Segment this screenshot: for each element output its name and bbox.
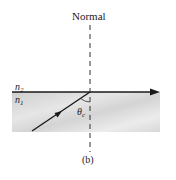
figure-caption: (b) bbox=[82, 155, 94, 165]
diagram-graphics bbox=[0, 0, 176, 180]
critical-angle-label: θc bbox=[77, 107, 85, 119]
medium-n1-label: n1 bbox=[15, 95, 24, 107]
theta-subscript: c bbox=[82, 111, 85, 119]
medium-n2-label: n2 bbox=[15, 82, 24, 94]
normal-label: Normal bbox=[72, 11, 106, 22]
n1-subscript: 1 bbox=[20, 99, 24, 107]
medium-n1-region bbox=[12, 92, 160, 132]
n2-subscript: 2 bbox=[20, 86, 24, 94]
critical-angle-diagram: Normal n2 n1 θc (b) bbox=[0, 0, 176, 180]
